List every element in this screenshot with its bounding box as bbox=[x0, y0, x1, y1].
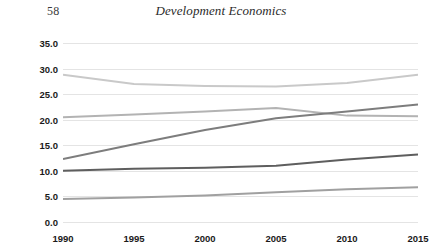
gridline bbox=[63, 222, 418, 223]
y-axis-tick-label: 0.0 bbox=[12, 217, 58, 228]
y-axis-tick-label: 10.0 bbox=[12, 165, 58, 176]
series-line bbox=[63, 75, 418, 87]
series-line bbox=[63, 154, 418, 170]
y-axis-tick-label: 25.0 bbox=[12, 89, 58, 100]
series-line bbox=[63, 187, 418, 199]
line-chart: 0.05.010.015.020.025.030.035.0 199019952… bbox=[0, 30, 442, 243]
x-axis-tick-label: 2015 bbox=[395, 233, 441, 243]
series-line bbox=[63, 104, 418, 159]
x-axis-tick-label: 1995 bbox=[111, 233, 157, 243]
y-axis-tick-label: 30.0 bbox=[12, 63, 58, 74]
y-axis-tick-label: 15.0 bbox=[12, 140, 58, 151]
x-axis-tick-label: 1990 bbox=[40, 233, 86, 243]
page-root: 58 Development Economics 0.05.010.015.02… bbox=[0, 0, 442, 243]
x-axis-tick-label: 2005 bbox=[253, 233, 299, 243]
series-lines bbox=[63, 43, 418, 222]
plot-area bbox=[63, 43, 418, 222]
y-axis-tick-label: 5.0 bbox=[12, 191, 58, 202]
running-header: 58 Development Economics bbox=[0, 0, 442, 28]
running-title: Development Economics bbox=[0, 3, 442, 19]
x-axis-tick-label: 2000 bbox=[182, 233, 228, 243]
x-axis-tick-label: 2010 bbox=[324, 233, 370, 243]
y-axis-tick-label: 20.0 bbox=[12, 114, 58, 125]
y-axis-tick-label: 35.0 bbox=[12, 38, 58, 49]
